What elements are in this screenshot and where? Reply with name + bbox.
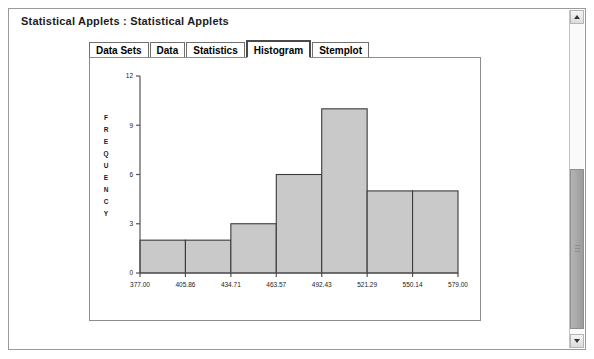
tab-data-sets-label: Data Sets [96, 45, 142, 56]
x-tick-label: 521.29 [357, 281, 377, 288]
scroll-up-button[interactable] [570, 10, 584, 24]
scrollbar-thumb[interactable] [570, 169, 584, 329]
histogram-bar [231, 224, 276, 273]
x-tick-label: 405.86 [175, 281, 195, 288]
histogram-panel: FREQUENCY 036912 377.00405.86434.71463.5… [89, 57, 481, 321]
x-tick-label: 434.71 [221, 281, 241, 288]
applet-window: Statistical Applets : Statistical Applet… [8, 8, 586, 350]
tab-data-sets[interactable]: Data Sets [89, 42, 149, 58]
y-axis-title-letter: E [104, 138, 109, 145]
y-axis-title-letter: N [104, 186, 109, 193]
histogram-svg: FREQUENCY 036912 377.00405.86434.71463.5… [90, 58, 480, 320]
y-tick-label: 12 [126, 72, 134, 79]
y-axis-title-letter: Q [103, 150, 108, 158]
y-axis-title-letter: U [104, 162, 109, 169]
vertical-scrollbar[interactable] [569, 10, 584, 348]
x-tick-label: 463.57 [266, 281, 286, 288]
tab-data[interactable]: Data [150, 42, 186, 58]
histogram-bar [185, 240, 230, 273]
y-axis-ticks: 036912 [126, 72, 140, 276]
histogram-bars [140, 109, 458, 273]
histogram-bar [413, 191, 458, 273]
histogram-bar [367, 191, 412, 273]
x-tick-label: 579.00 [448, 281, 468, 288]
x-tick-label: 377.00 [130, 281, 150, 288]
page-title: Statistical Applets : Statistical Applet… [21, 15, 229, 27]
y-axis-title-letter: C [104, 198, 109, 205]
x-axis-ticks: 377.00405.86434.71463.57492.43521.29550.… [130, 273, 468, 288]
tab-statistics-label: Statistics [193, 45, 237, 56]
x-tick-label: 492.43 [312, 281, 332, 288]
y-axis-title-letter: E [104, 174, 109, 181]
grip-icon [575, 245, 580, 253]
tab-bar: Data Sets Data Statistics Histogram Stem… [89, 40, 370, 58]
chevron-up-icon [574, 15, 580, 19]
y-axis-title-letter: R [104, 126, 109, 133]
tab-histogram-label: Histogram [254, 45, 303, 56]
y-tick-label: 3 [129, 220, 133, 227]
scrollbar-track[interactable] [570, 24, 584, 334]
chevron-down-icon [574, 339, 580, 343]
tab-statistics[interactable]: Statistics [186, 42, 244, 58]
scroll-down-button[interactable] [570, 334, 584, 348]
x-tick-label: 550.14 [403, 281, 423, 288]
y-axis-title: FREQUENCY [103, 114, 108, 217]
y-tick-label: 9 [129, 122, 133, 129]
tab-stemplot-label: Stemplot [319, 45, 362, 56]
histogram-chart: FREQUENCY 036912 377.00405.86434.71463.5… [90, 58, 480, 320]
y-tick-label: 0 [129, 269, 133, 276]
histogram-bar [276, 175, 321, 274]
histogram-bar [140, 240, 185, 273]
y-tick-label: 6 [129, 171, 133, 178]
tab-histogram[interactable]: Histogram [246, 40, 311, 58]
y-axis-title-letter: F [104, 114, 108, 121]
histogram-bar [322, 109, 367, 273]
y-axis-title-letter: Y [104, 210, 109, 217]
tab-stemplot[interactable]: Stemplot [312, 42, 369, 58]
tab-data-label: Data [157, 45, 179, 56]
